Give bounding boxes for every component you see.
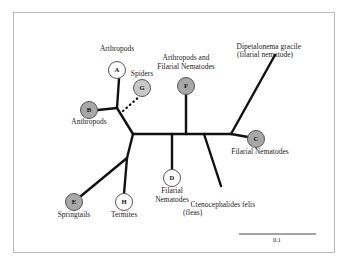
branch-spiders-dotted (123, 96, 140, 111)
taxon-label-dipetalonema: Dipetalonema gracile(filarial nematode) (215, 34, 315, 68)
node-circle-e[interactable] (66, 194, 83, 211)
node-label-c: Filarial Nematodes (210, 148, 310, 157)
branch-to-node-e (81, 158, 127, 196)
node-circle-h[interactable] (116, 194, 133, 211)
node-circle-f[interactable] (178, 78, 195, 95)
node-label-a: Arthropods (77, 45, 157, 54)
branch-to-node-a (117, 79, 119, 108)
node-circle-b[interactable] (81, 102, 98, 119)
node-label-h: Termites (84, 211, 164, 220)
figure-root: A B C D E F G H Arthropods Anthropods Fi… (0, 0, 349, 268)
branch-to-node-c (231, 134, 248, 137)
node-label-b: Anthropods (49, 118, 129, 127)
node-label-g: Spiders (114, 70, 170, 79)
taxon-ctenocephalides-common: (fleas) (183, 208, 202, 217)
node-circle-d[interactable] (164, 170, 181, 187)
node-circle-g[interactable] (134, 80, 151, 97)
branch-to-node-h (124, 158, 127, 194)
branch-to-ctenocephalides (204, 134, 221, 186)
taxon-label-ctenocephalides: Ctenocephalides felis(fleas) (183, 192, 279, 226)
branch-to-node-b (98, 108, 117, 110)
taxon-dipetalonema-common: (filarial nematode) (237, 50, 293, 59)
dotted-branch-to-node-g (123, 96, 140, 111)
scale-bar-label: 0.1 (247, 236, 307, 243)
branch-center-to-eh-node (127, 134, 133, 158)
node-circle-c[interactable] (248, 131, 265, 148)
